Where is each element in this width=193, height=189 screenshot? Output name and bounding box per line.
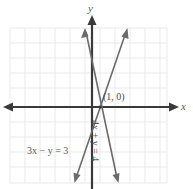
intersection-point-marker: [98, 105, 101, 108]
line1-top-arrowhead: [122, 28, 129, 39]
line1-bottom-arrowhead: [74, 173, 81, 184]
x-axis-right-arrowhead: [169, 103, 179, 112]
line2-equation-label: 4x + y = 4: [90, 120, 100, 161]
line2-bottom-arrowhead: [113, 173, 120, 183]
coordinate-graph-figure: y x (1, 0) 3x − y = 3 4x + y = 4: [0, 0, 193, 189]
x-axis-label: x: [181, 101, 186, 112]
y-axis-top-arrowhead: [88, 15, 97, 25]
grid-lines: [10, 28, 167, 183]
x-axis-left-arrowhead: [3, 103, 13, 112]
line1-equation-label: 3x − y = 3: [27, 146, 68, 156]
y-axis-label: y: [88, 3, 93, 14]
line2-top-arrowhead: [81, 28, 89, 38]
y-axis: [88, 15, 97, 189]
intersection-point-label: (1, 0): [103, 92, 125, 102]
